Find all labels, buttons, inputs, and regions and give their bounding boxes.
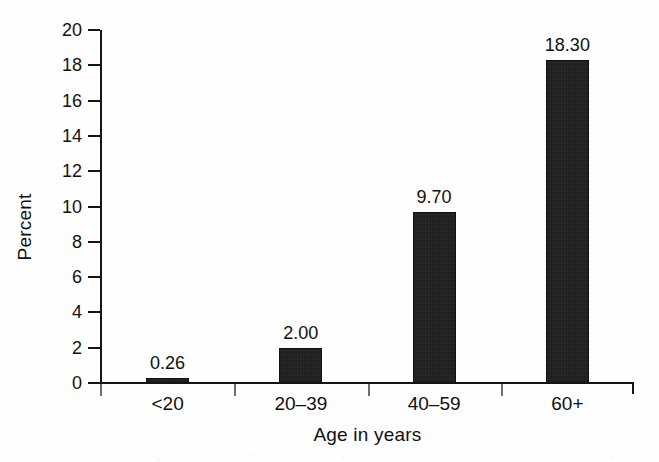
bar-value-label: 0.26 — [108, 354, 228, 372]
scan-artifact — [0, 452, 659, 462]
bar — [146, 378, 189, 383]
bar — [413, 212, 456, 383]
x-axis-title: Age in years — [101, 424, 634, 446]
y-axis-tick-mark — [88, 241, 100, 243]
x-axis-category-label: 60+ — [497, 393, 637, 415]
y-axis-tick-mark — [88, 170, 100, 172]
bar-value-label: 18.30 — [507, 36, 627, 54]
y-axis-tick-label: 4 — [44, 303, 82, 321]
x-axis-category-label: 40–59 — [364, 393, 504, 415]
y-axis-tick-label: 0 — [44, 374, 82, 392]
y-axis-tick-label: 8 — [44, 233, 82, 251]
y-axis-tick-label: 18 — [44, 56, 82, 74]
y-axis-tick-mark — [88, 311, 100, 313]
bar-value-label: 9.70 — [374, 188, 494, 206]
y-axis-tick-mark — [88, 382, 100, 384]
y-axis-tick-mark — [88, 276, 100, 278]
y-axis-tick-label: 16 — [44, 92, 82, 110]
y-axis-tick-label: 10 — [44, 198, 82, 216]
y-axis-tick-label: 14 — [44, 127, 82, 145]
x-axis-category-label: 20–39 — [231, 393, 371, 415]
y-axis-tick-mark — [88, 29, 100, 31]
y-axis-tick-mark — [88, 206, 100, 208]
y-axis-line — [100, 30, 102, 384]
y-axis-tick-mark — [88, 347, 100, 349]
bar-value-label: 2.00 — [241, 324, 361, 342]
y-axis-title: Percent — [12, 162, 38, 292]
y-axis-tick-mark — [88, 64, 100, 66]
bar-chart-figure: Percent 02468101214161820 0.26<202.0020–… — [0, 0, 659, 462]
y-axis-tick-label: 2 — [44, 339, 82, 357]
x-axis-category-label: <20 — [98, 393, 238, 415]
y-axis-tick-label: 6 — [44, 268, 82, 286]
y-axis-tick-label: 20 — [44, 21, 82, 39]
y-axis-tick-label: 12 — [44, 162, 82, 180]
y-axis-tick-mark — [88, 100, 100, 102]
y-axis-tick-mark — [88, 135, 100, 137]
bar — [546, 60, 589, 383]
bar — [279, 348, 322, 383]
